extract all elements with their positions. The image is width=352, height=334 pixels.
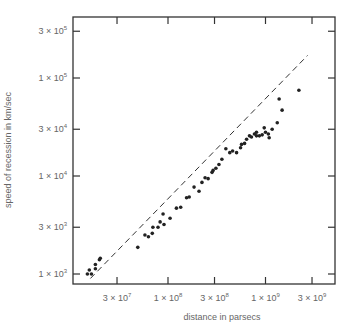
data-point: [270, 127, 274, 131]
data-point: [175, 206, 179, 210]
scatter-chart: 1 × 1033 × 1031 × 1043 × 1041 × 1053 × 1…: [0, 0, 352, 334]
data-point: [94, 263, 98, 267]
x-tick-label: 1 × 109: [251, 292, 280, 303]
data-point: [168, 217, 172, 221]
data-point: [203, 176, 207, 180]
data-point: [297, 88, 301, 92]
y-tick-label: 3 × 104: [38, 123, 67, 134]
x-tick-label: 1 × 108: [154, 292, 183, 303]
data-point: [86, 272, 90, 276]
data-point: [206, 177, 210, 181]
data-point: [147, 235, 151, 239]
data-point: [231, 149, 235, 153]
data-point: [224, 147, 228, 151]
y-axis-label: speed of recession in km/sec: [3, 91, 13, 208]
plot-frame: [73, 17, 335, 284]
x-axis-label: distance in parsecs: [183, 312, 261, 322]
data-point: [277, 97, 281, 101]
data-point: [211, 169, 215, 173]
y-tick-label: 1 × 104: [38, 170, 67, 181]
data-point: [98, 256, 102, 260]
data-point: [156, 225, 160, 229]
data-point: [267, 136, 271, 140]
data-point: [200, 181, 204, 185]
data-point: [267, 132, 271, 136]
data-point: [214, 166, 218, 170]
data-point: [162, 223, 166, 227]
data-point: [275, 121, 279, 125]
x-tick-label: 3 × 108: [200, 292, 229, 303]
data-point: [90, 272, 94, 276]
data-point: [245, 137, 249, 141]
data-point: [88, 268, 92, 272]
axis-ticks: [73, 17, 335, 284]
data-point: [255, 130, 259, 134]
data-point: [280, 108, 284, 112]
y-tick-labels: 1 × 1033 × 1031 × 1043 × 1041 × 1053 × 1…: [38, 25, 67, 279]
x-tick-label: 3 × 107: [103, 292, 132, 303]
data-points: [86, 88, 301, 275]
data-point: [143, 233, 147, 237]
data-point: [187, 195, 191, 199]
fit-line: [90, 55, 307, 278]
data-point: [150, 232, 154, 236]
data-point: [262, 126, 266, 130]
data-point: [179, 205, 183, 209]
data-point: [136, 246, 140, 250]
data-point: [260, 133, 264, 137]
y-tick-label: 3 × 103: [38, 221, 67, 232]
y-tick-label: 3 × 105: [38, 25, 67, 36]
data-point: [94, 267, 98, 271]
data-point: [217, 163, 221, 167]
x-tick-labels: 3 × 1071 × 1083 × 1081 × 1093 × 109: [103, 292, 327, 303]
data-point: [250, 135, 254, 139]
data-point: [158, 220, 162, 224]
data-point: [192, 185, 196, 189]
data-point: [235, 151, 239, 155]
data-point: [220, 158, 224, 162]
data-point: [243, 142, 247, 146]
data-point: [239, 146, 243, 150]
data-point: [197, 189, 201, 193]
y-tick-label: 1 × 103: [38, 268, 67, 279]
data-point: [161, 212, 165, 216]
y-tick-label: 1 × 105: [38, 72, 67, 83]
data-point: [151, 225, 155, 229]
x-tick-label: 3 × 109: [298, 292, 327, 303]
